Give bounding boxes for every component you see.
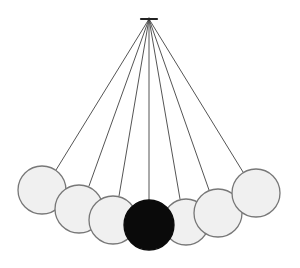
strings [56,19,243,200]
pivot-point [147,17,150,20]
pendulum-ball [232,169,280,217]
pendulum-string [149,19,209,190]
pendulum-string [149,19,243,172]
pendulum-string [149,19,180,199]
pendulum-string [119,19,149,196]
pendulum-canvas [0,0,300,268]
pendulum-ball-highlighted [124,200,174,250]
